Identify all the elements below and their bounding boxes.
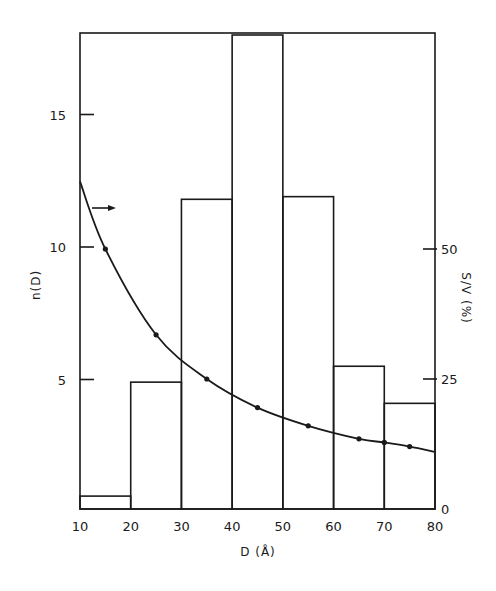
x-axis-title: D (Å) [240,544,276,559]
right-arrow-icon [92,205,116,211]
x-tick-label: 50 [275,519,292,534]
x-tick-label: 20 [122,519,139,534]
data-point-marker [204,376,209,381]
right-tick-label: 25 [441,372,458,387]
data-point-marker [382,440,387,445]
histogram-bar [384,403,435,509]
histogram-chart: 51015 02550 1020304050607080 D (Å) n(D) … [0,0,496,591]
histogram-bar [181,199,232,509]
sv-curve [80,181,435,451]
left-tick-label: 5 [58,373,66,388]
x-tick-label: 10 [72,519,89,534]
right-tick-label: 0 [441,502,449,517]
histogram-bar [232,35,283,509]
x-tick-label: 70 [376,519,393,534]
plot-border [80,33,435,509]
x-tick-label: 80 [427,519,444,534]
x-axis-ticks: 1020304050607080 [72,519,444,534]
x-tick-label: 30 [173,519,190,534]
x-tick-label: 60 [325,519,342,534]
histogram-bar [283,197,334,509]
data-point-marker [255,405,260,410]
histogram-bars [80,35,435,509]
histogram-bar [80,496,131,509]
data-point-marker [103,246,108,251]
right-axis-title: S/V (%) [459,272,473,323]
data-point-marker [356,436,361,441]
sv-curve-line [80,181,435,451]
data-point-marker [407,444,412,449]
plot-frame [80,33,435,509]
data-point-marker [306,423,311,428]
data-point-marker [153,332,158,337]
right-axis-ticks: 02550 [423,242,458,517]
right-tick-label: 50 [441,242,458,257]
left-axis-title: n(D) [29,270,43,300]
left-tick-label: 10 [49,240,66,255]
left-axis-ticks: 51015 [49,108,94,388]
x-tick-label: 40 [224,519,241,534]
histogram-bar [131,382,182,509]
left-tick-label: 15 [49,108,66,123]
